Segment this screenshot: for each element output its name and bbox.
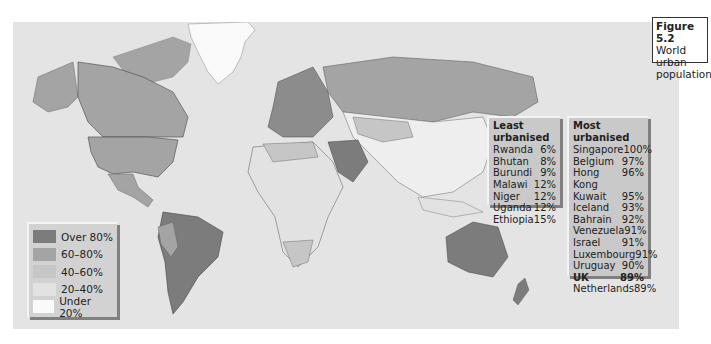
country-name: Bahrain xyxy=(573,214,612,226)
country-value: 6% xyxy=(540,144,556,156)
table-row: Kuwait95% xyxy=(573,191,644,203)
country-value: 9% xyxy=(540,167,556,179)
usa-region xyxy=(88,137,178,177)
country-value: 12% xyxy=(534,179,556,191)
legend-label: 20–40% xyxy=(61,283,103,295)
table-row: Uganda12% xyxy=(493,202,556,214)
table-row: Rwanda6% xyxy=(493,144,556,156)
country-value: 8% xyxy=(540,156,556,168)
legend-label: Under 20% xyxy=(59,295,113,319)
country-value: 91% xyxy=(624,225,646,237)
legend-swatch xyxy=(33,283,56,296)
country-value: 12% xyxy=(534,202,556,214)
most-urbanised-table: Most urbanised Singapore100% Belgium97% … xyxy=(567,116,648,276)
country-name: Uruguay xyxy=(573,260,616,272)
country-value: 91% xyxy=(622,237,644,249)
country-name: UK xyxy=(573,272,589,284)
country-value: 97% xyxy=(622,156,644,168)
table-row-highlighted: UK89% xyxy=(573,272,644,284)
country-name: Rwanda xyxy=(493,144,533,156)
figure-title-line1: World urban xyxy=(656,44,704,68)
table-row: Burundi9% xyxy=(493,167,556,179)
least-urbanised-table: Least urbanised Rwanda6% Bhutan8% Burund… xyxy=(487,116,560,205)
table-row: Niger12% xyxy=(493,191,556,203)
country-value: 91% xyxy=(635,249,657,261)
country-value: 89% xyxy=(634,283,656,295)
country-value: 15% xyxy=(534,214,556,226)
russia-region xyxy=(323,57,538,122)
country-value: 96% xyxy=(622,167,644,190)
legend-item: 40–60% xyxy=(33,263,113,281)
legend-item: Under 20% xyxy=(33,298,113,316)
country-name: Ethiopia xyxy=(493,214,534,226)
legend-label: 60–80% xyxy=(61,248,103,260)
table-row: Hong Kong96% xyxy=(573,167,644,190)
table-row: Singapore100% xyxy=(573,144,644,156)
legend-swatch xyxy=(33,300,54,313)
legend-swatch xyxy=(33,248,56,261)
country-value: 89% xyxy=(620,272,644,284)
country-name: Kuwait xyxy=(573,191,606,203)
table-row: Israel91% xyxy=(573,237,644,249)
table-row: Bhutan8% xyxy=(493,156,556,168)
legend-label: 40–60% xyxy=(61,266,103,278)
country-name: Israel xyxy=(573,237,600,249)
country-name: Uganda xyxy=(493,202,532,214)
country-value: 100% xyxy=(623,144,652,156)
country-name: Luxembourg xyxy=(573,249,635,261)
figure-number: Figure 5.2 xyxy=(656,20,704,44)
country-name: Malawi xyxy=(493,179,528,191)
legend-label: Over 80% xyxy=(61,231,113,243)
legend-item: 60–80% xyxy=(33,246,113,264)
table-row: Netherlands89% xyxy=(573,283,644,295)
country-name: Singapore xyxy=(573,144,623,156)
legend-item: Over 80% xyxy=(33,228,113,246)
new-zealand-region xyxy=(513,278,529,305)
figure-title-line2: population xyxy=(656,68,704,80)
alaska-region xyxy=(33,62,78,112)
table-row: Belgium97% xyxy=(573,156,644,168)
country-value: 90% xyxy=(622,260,644,272)
australia-region xyxy=(446,222,508,277)
greenland-region xyxy=(188,22,255,84)
country-name: Burundi xyxy=(493,167,532,179)
table-row: Malawi12% xyxy=(493,179,556,191)
legend-swatch xyxy=(33,230,56,243)
southern-africa-region xyxy=(283,240,313,267)
most-urbanised-heading: Most urbanised xyxy=(573,120,644,143)
table-row: Iceland93% xyxy=(573,202,644,214)
country-value: 93% xyxy=(622,202,644,214)
legend-swatch xyxy=(33,265,56,278)
country-name: Hong Kong xyxy=(573,167,622,190)
table-row: Venezuela91% xyxy=(573,225,644,237)
map-legend: Over 80% 60–80% 40–60% 20–40% Under 20% xyxy=(27,222,117,317)
table-row: Uruguay90% xyxy=(573,260,644,272)
country-name: Netherlands xyxy=(573,283,634,295)
mexico-region xyxy=(108,174,153,207)
least-urbanised-heading: Least urbanised xyxy=(493,120,556,143)
country-name: Bhutan xyxy=(493,156,529,168)
southeast-asia-islands xyxy=(418,197,483,217)
country-value: 95% xyxy=(622,191,644,203)
table-row: Bahrain92% xyxy=(573,214,644,226)
europe-region xyxy=(268,67,333,137)
country-name: Niger xyxy=(493,191,520,203)
table-row: Luxembourg91% xyxy=(573,249,644,261)
country-value: 92% xyxy=(622,214,644,226)
country-name: Belgium xyxy=(573,156,614,168)
country-name: Venezuela xyxy=(573,225,624,237)
figure-caption: Figure 5.2 World urban population xyxy=(652,17,708,63)
country-name: Iceland xyxy=(573,202,609,214)
country-value: 12% xyxy=(534,191,556,203)
table-row: Ethiopia15% xyxy=(493,214,556,226)
